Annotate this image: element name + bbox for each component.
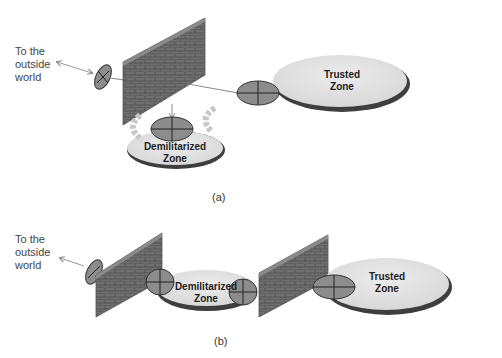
outside-world-label-a: To the outside world — [15, 45, 50, 84]
curved-arrow-icon — [206, 108, 215, 132]
dmz-line-1: Demilitarized — [135, 141, 215, 153]
router-icon — [313, 275, 355, 299]
diagram-a — [57, 18, 410, 169]
outside-link-arrow — [60, 258, 84, 266]
dmz-label-a: Demilitarized Zone — [135, 141, 215, 165]
firewall-wall-icon — [259, 235, 328, 317]
caption-b: (b) — [214, 335, 227, 347]
router-icon — [151, 117, 193, 141]
dmz-line-2: Zone — [164, 293, 248, 305]
trusted-line-1: Trusted — [310, 69, 374, 81]
outside-line-2: outside — [15, 246, 50, 259]
trusted-line-1: Trusted — [355, 271, 419, 283]
outside-line-1: To the — [15, 45, 50, 58]
outside-line-3: world — [15, 71, 50, 84]
router-icon — [91, 62, 115, 91]
dmz-line-2: Zone — [135, 153, 215, 165]
trusted-line-2: Zone — [310, 81, 374, 93]
firewall-wall-icon — [123, 18, 205, 125]
outside-line-2: outside — [15, 58, 50, 71]
curved-arrow-icon — [133, 115, 142, 140]
outside-link-arrow — [57, 62, 92, 73]
caption-a: (a) — [212, 191, 225, 203]
dmz-line-1: Demilitarized — [164, 281, 248, 293]
trusted-zone-label-a: Trusted Zone — [310, 69, 374, 93]
trusted-zone-label-b: Trusted Zone — [355, 271, 419, 295]
outside-line-1: To the — [15, 233, 50, 246]
dmz-label-b: Demilitarized Zone — [164, 281, 248, 305]
outside-world-label-b: To the outside world — [15, 233, 50, 272]
outside-line-3: world — [15, 259, 50, 272]
router-icon — [237, 81, 279, 105]
diagram-canvas — [0, 0, 502, 358]
trusted-line-2: Zone — [355, 283, 419, 295]
